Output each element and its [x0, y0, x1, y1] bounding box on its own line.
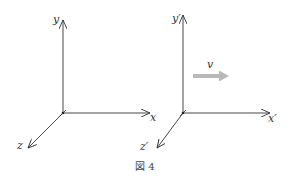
z-prime-axis	[157, 113, 183, 148]
velocity-arrow: v	[193, 58, 229, 82]
figure-4: y x z y′ x′ z′ v 図 4	[0, 0, 296, 185]
velocity-label: v	[207, 58, 214, 71]
frame-s: y x z	[16, 13, 157, 152]
z-axis	[28, 113, 63, 148]
x-label: x	[150, 111, 157, 124]
y-label: y	[52, 13, 60, 26]
figure-caption: 図 4	[135, 161, 155, 172]
y-prime-label: y′	[171, 12, 181, 25]
origin-prime-dot	[182, 112, 185, 115]
z-label: z	[16, 139, 23, 152]
z-prime-label: z′	[139, 140, 149, 153]
frame-s-prime: y′ x′ z′	[139, 12, 277, 153]
origin-dot	[62, 112, 65, 115]
x-prime-label: x′	[268, 112, 277, 125]
